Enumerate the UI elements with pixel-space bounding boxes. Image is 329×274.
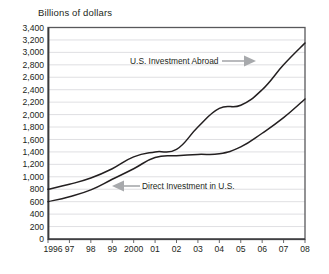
- y-tick-label: 1,000: [22, 172, 44, 182]
- y-tick-label: 0: [39, 234, 44, 244]
- y-tick-label: 1,800: [22, 122, 44, 132]
- y-tick-label: 800: [30, 184, 45, 194]
- y-tick-label: 400: [30, 209, 45, 219]
- x-tick-label: 06: [257, 244, 267, 254]
- x-tick-label: 05: [236, 244, 246, 254]
- y-axis-tick-labels: 02004006008001,0001,2001,4001,6001,8002,…: [22, 23, 44, 245]
- x-tick-label: 98: [86, 244, 96, 254]
- y-tick-label: 2,400: [22, 85, 44, 95]
- y-tick-label: 3,000: [22, 47, 44, 57]
- y-tick-label: 3,200: [22, 35, 44, 45]
- x-tick-label: 01: [150, 244, 160, 254]
- svg-text:Direct Investment in U.S.: Direct Investment in U.S.: [142, 181, 235, 191]
- y-tick-label: 2,200: [22, 97, 44, 107]
- x-tick-label: 1996: [43, 244, 62, 254]
- y-tick-label: 3,400: [22, 23, 44, 33]
- x-axis-tick-labels: 199697989920000102030405060708: [43, 244, 310, 254]
- x-tick-label: 2000: [124, 244, 143, 254]
- annotation-direct-investment-in-us: Direct Investment in U.S.: [112, 181, 235, 192]
- line-chart-plot: 02004006008001,0001,2001,4001,6001,8002,…: [0, 0, 329, 274]
- x-tick-label: 97: [65, 244, 75, 254]
- y-tick-label: 600: [30, 197, 45, 207]
- svg-text:U.S. Investment Abroad: U.S. Investment Abroad: [130, 56, 219, 66]
- y-tick-label: 1,200: [22, 159, 44, 169]
- y-tick-label: 2,000: [22, 110, 44, 120]
- x-tick-label: 99: [107, 244, 117, 254]
- y-tick-label: 200: [30, 222, 45, 232]
- x-tick-label: 04: [215, 244, 225, 254]
- x-tick-label: 02: [172, 244, 182, 254]
- x-tick-label: 07: [279, 244, 289, 254]
- y-tick-label: 1,400: [22, 147, 44, 157]
- y-tick-label: 2,800: [22, 60, 44, 70]
- x-tick-label: 08: [300, 244, 310, 254]
- arrow-left-icon: [112, 181, 124, 192]
- chart-container: Billions of dollars 02004006008001,0001,…: [0, 0, 329, 274]
- y-tick-label: 2,600: [22, 72, 44, 82]
- gridlines-group: [48, 40, 305, 227]
- y-tick-label: 1,600: [22, 135, 44, 145]
- x-tick-label: 03: [193, 244, 203, 254]
